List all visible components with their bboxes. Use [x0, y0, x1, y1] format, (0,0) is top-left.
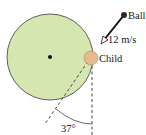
speed-label: 12 m/s [108, 34, 136, 45]
child [84, 51, 98, 65]
center-dot [48, 55, 52, 59]
angle-arc [56, 109, 92, 124]
ball-label: Ball [128, 10, 146, 21]
merry-go-round-diagram: Ball 12 m/s Child 37° [0, 0, 146, 135]
child-label: Child [99, 53, 123, 64]
ball [121, 12, 127, 18]
angle-label: 37° [61, 123, 76, 134]
